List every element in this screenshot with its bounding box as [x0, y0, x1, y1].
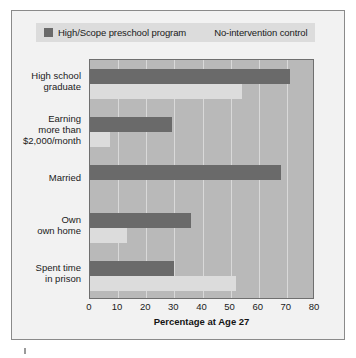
- x-axis-tick-0: 0: [86, 301, 91, 312]
- y-axis-label-line: $2,000/month: [23, 135, 81, 146]
- y-axis-label-line: more than: [23, 124, 81, 135]
- bar-group: [90, 156, 313, 204]
- legend-swatch-preschool-program: [44, 28, 53, 37]
- y-axis-label-line: Earning: [23, 113, 81, 124]
- bar-group: [90, 60, 313, 108]
- x-axis-tick-30: 30: [168, 301, 179, 312]
- x-axis-tick-labels: 01020304050607080: [89, 301, 314, 315]
- x-axis-tick-40: 40: [196, 301, 207, 312]
- bar-group: [90, 204, 313, 252]
- bar: [90, 69, 290, 84]
- x-axis-tick-70: 70: [281, 301, 292, 312]
- bar: [90, 84, 242, 99]
- y-axis-label: Earningmore than$2,000/month: [23, 113, 81, 146]
- y-axis-label-line: High school: [31, 70, 81, 81]
- y-axis-label-line: graduate: [31, 81, 81, 92]
- y-axis-label: High schoolgraduate: [31, 70, 81, 92]
- bar-groups: [90, 60, 313, 298]
- bar-group: [90, 252, 313, 300]
- x-axis-tick-20: 20: [140, 301, 151, 312]
- y-axis-label: Spent timein prison: [36, 262, 81, 284]
- bar: [90, 276, 236, 291]
- y-axis-category-labels: High schoolgraduateEarningmore than$2,00…: [12, 59, 85, 299]
- legend-entry-control: No-intervention control: [200, 27, 307, 38]
- bar-group: [90, 108, 313, 156]
- legend-label-control: No-intervention control: [214, 27, 307, 38]
- y-axis-label-line: own home: [37, 225, 81, 236]
- y-axis-label-line: Spent time: [36, 262, 81, 273]
- bar: [90, 213, 191, 228]
- chart-figure: High/Scope preschool program No-interven…: [11, 10, 345, 340]
- bar: [90, 132, 110, 147]
- chart-legend: High/Scope preschool program No-interven…: [36, 23, 315, 42]
- bar: [90, 117, 172, 132]
- y-axis-label-line: in prison: [36, 273, 81, 284]
- x-axis-tick-50: 50: [224, 301, 235, 312]
- x-axis-title: Percentage at Age 27: [89, 316, 314, 327]
- x-axis-tick-80: 80: [309, 301, 320, 312]
- x-axis-tick-60: 60: [252, 301, 263, 312]
- page-artifact-mark: [24, 348, 26, 354]
- y-axis-label: Ownown home: [37, 214, 81, 236]
- bar: [90, 165, 281, 180]
- y-axis-label-line: Own: [37, 214, 81, 225]
- plot-area: [89, 59, 314, 299]
- legend-label-preschool-program: High/Scope preschool program: [58, 27, 186, 38]
- x-axis-tick-10: 10: [112, 301, 123, 312]
- y-axis-label: Married: [49, 172, 81, 183]
- bar: [90, 228, 127, 243]
- legend-swatch-control: [200, 28, 209, 37]
- legend-entry-preschool-program: High/Scope preschool program: [44, 27, 186, 38]
- y-axis-label-line: Married: [49, 172, 81, 183]
- bar: [90, 261, 174, 276]
